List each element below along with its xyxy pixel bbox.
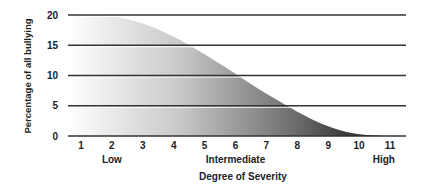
x-tick-label: 10 xyxy=(354,140,366,151)
y-axis-label: Percentage of all bullying xyxy=(22,18,33,133)
x-tick-label: 6 xyxy=(233,140,239,151)
x-tick-label: 9 xyxy=(325,140,331,151)
x-tick-label: 4 xyxy=(171,140,177,151)
x-tick-label: 7 xyxy=(264,140,270,151)
chart: 05101520 1234567891011 LowIntermediateHi… xyxy=(0,0,425,194)
y-tick-label: 15 xyxy=(47,40,59,51)
y-tick-label: 5 xyxy=(52,100,58,111)
severity-category-label: Low xyxy=(102,154,122,165)
x-tick-label: 3 xyxy=(140,140,146,151)
y-tick-label: 20 xyxy=(47,10,59,21)
x-tick-label: 5 xyxy=(202,140,208,151)
x-tick-label: 1 xyxy=(78,140,84,151)
severity-category-label: Intermediate xyxy=(206,154,266,165)
y-tick-label: 0 xyxy=(52,131,58,142)
x-tick-label: 8 xyxy=(295,140,301,151)
severity-category-label: High xyxy=(373,154,395,165)
x-tick-label: 11 xyxy=(385,140,396,151)
y-tick-label: 10 xyxy=(47,70,59,81)
x-axis-label: Degree of Severity xyxy=(199,171,287,182)
x-tick-label: 2 xyxy=(109,140,115,151)
